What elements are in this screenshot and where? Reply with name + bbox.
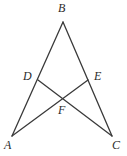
point-label-B: B [58,2,65,14]
point-label-E: E [94,70,101,82]
geometry-figure: B D E F A C [0,0,127,156]
segment-side-AB [12,22,63,136]
segment-side-BC [63,22,112,136]
geometry-canvas [0,0,127,156]
point-label-A: A [4,139,11,151]
point-label-C: C [112,139,120,151]
point-label-F: F [58,104,65,116]
point-label-D: D [23,70,32,82]
